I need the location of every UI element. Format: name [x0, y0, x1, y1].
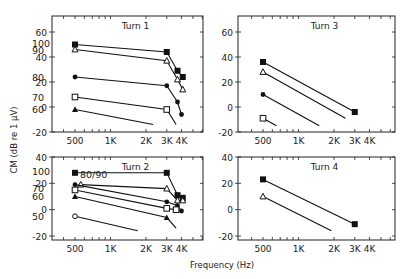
x-tick-label: 2K — [328, 244, 341, 254]
series-line — [263, 72, 345, 118]
data-point-filled-square — [164, 170, 170, 176]
y-tick-label: -20 — [32, 232, 47, 242]
data-point-open-square — [173, 207, 179, 213]
data-point-open-triangle — [180, 86, 186, 92]
y-tick-label: 0 — [227, 205, 233, 215]
x-tick-label: 2K — [328, 136, 341, 146]
y-tick-label: -20 — [218, 128, 233, 138]
series-line — [75, 110, 153, 125]
x-tick-label: 4K — [364, 136, 377, 146]
x-tick-label: 3K — [161, 136, 174, 146]
data-point-filled-square — [260, 176, 266, 182]
panel-title: Turn 4 — [310, 162, 339, 172]
level-label: 100 — [32, 166, 50, 177]
data-point-filled-square — [175, 68, 181, 74]
x-axis-title: Frequency (Hz) — [190, 260, 254, 270]
y-tick-label: 20 — [222, 179, 234, 189]
panel-title: Turn 1 — [121, 21, 150, 31]
data-point-filled-square — [164, 49, 170, 55]
series-line — [75, 97, 176, 125]
x-tick-label: 3K — [161, 244, 174, 254]
data-point-open-square — [260, 115, 266, 121]
data-point-open-square — [164, 107, 170, 113]
data-point-filled-square — [180, 74, 186, 80]
data-point-filled-circle — [179, 209, 184, 214]
y-tick-label: 60 — [36, 28, 48, 38]
panel-turn-4: Turn 4-20020405001K2K3K4K — [218, 153, 395, 255]
y-tick-label: 60 — [222, 28, 234, 38]
data-point-filled-square — [352, 109, 358, 115]
panel-turn-1: Turn 1-2002040605001K2K3K4K10090807060 — [32, 16, 203, 146]
series-line — [75, 197, 176, 229]
x-tick-label: 4K — [176, 244, 189, 254]
x-tick-label: 2K — [140, 244, 153, 254]
data-point-open-circle — [73, 214, 78, 219]
data-point-filled-square — [352, 221, 358, 227]
level-label: 80 — [32, 72, 44, 83]
level-label: 60 — [32, 191, 44, 202]
y-tick-label: 40 — [222, 53, 234, 63]
x-tick-label: 1K — [105, 244, 118, 254]
series-line — [263, 179, 355, 224]
data-point-filled-square — [72, 170, 78, 176]
panel-turn-3: Turn 3-2002040605001K2K3K4K — [218, 16, 395, 146]
data-point-filled-circle — [164, 199, 169, 204]
y-tick-label: 0 — [227, 103, 233, 113]
series-line — [263, 62, 355, 112]
data-point-filled-circle — [164, 83, 169, 88]
y-tick-label: 40 — [36, 153, 48, 163]
level-label: 90 — [32, 45, 44, 56]
x-tick-label: 1K — [293, 244, 306, 254]
y-axis-title: CM (dB re 1 μV) — [9, 106, 19, 173]
x-tick-label: 4K — [364, 244, 377, 254]
data-point-filled-circle — [175, 100, 180, 105]
level-label: 60 — [32, 104, 44, 115]
level-label: 80/90 — [80, 169, 107, 180]
x-tick-label: 500 — [254, 244, 271, 254]
x-tick-label: 1K — [293, 136, 306, 146]
y-tick-label: -20 — [218, 232, 233, 242]
y-tick-label: 40 — [222, 153, 234, 163]
data-point-open-triangle — [175, 76, 181, 82]
level-label: 50 — [32, 211, 44, 222]
data-point-open-square — [72, 94, 78, 100]
x-tick-label: 2K — [140, 136, 153, 146]
panel-title: Turn 2 — [121, 162, 150, 172]
panel-title: Turn 3 — [310, 21, 339, 31]
data-point-filled-triangle — [72, 193, 78, 199]
data-point-filled-triangle — [72, 106, 78, 112]
y-tick-label: 20 — [222, 78, 234, 88]
x-tick-label: 3K — [349, 244, 362, 254]
x-tick-label: 3K — [349, 136, 362, 146]
level-label: 70 — [32, 92, 44, 103]
data-point-filled-circle — [261, 92, 266, 97]
data-point-open-square — [72, 187, 78, 193]
series-line — [75, 216, 138, 230]
data-point-filled-square — [260, 59, 266, 65]
data-point-filled-circle — [179, 112, 184, 117]
x-tick-label: 1K — [105, 136, 118, 146]
data-point-open-square — [164, 206, 170, 212]
x-tick-label: 500 — [66, 244, 83, 254]
x-tick-label: 500 — [254, 136, 271, 146]
series-line — [263, 197, 331, 231]
cochlear-microphonic-chart: Turn 1-2002040605001K2K3K4K10090807060Tu… — [0, 0, 406, 279]
data-point-filled-circle — [73, 75, 78, 80]
panel-turn-2: Turn 2-20020405001K2K3K4K10080/90706050 — [32, 153, 203, 255]
x-tick-label: 4K — [176, 136, 189, 146]
data-point-open-triangle — [260, 193, 266, 199]
data-point-filled-circle — [73, 182, 78, 187]
y-tick-label: -20 — [32, 128, 47, 138]
x-tick-label: 500 — [66, 136, 83, 146]
data-point-open-triangle — [260, 69, 266, 75]
